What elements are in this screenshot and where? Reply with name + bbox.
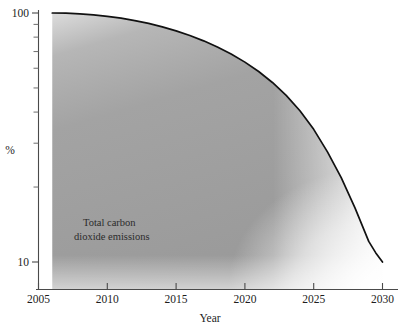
x-tick-label-2030: 2030 [371,293,394,305]
y-axis-title: % [5,144,15,156]
x-tick-label-2015: 2015 [165,293,188,305]
x-tick-label-2005: 2005 [27,293,50,305]
annotation-line-1: Total carbon [83,217,136,228]
plot-area [38,8,384,289]
y-tick-label-100: 100 [12,7,30,19]
x-tick-label-2025: 2025 [302,293,325,305]
x-axis-title: Year [199,312,220,324]
annotation-line-2: dioxide emissions [74,231,150,242]
x-axis: 2005 2010 2015 2020 2025 2030 Year [27,283,398,324]
emissions-decline-chart: 100 10 % 2005 2010 2015 2020 2025 2030 Y… [0,0,403,331]
x-tick-label-2020: 2020 [233,293,256,305]
x-tick-label-2010: 2010 [96,293,119,305]
y-tick-label-10: 10 [18,256,30,268]
y-axis: 100 10 % [5,7,38,289]
chart-container: 100 10 % 2005 2010 2015 2020 2025 2030 Y… [0,0,403,331]
corner-fade-overlay [38,8,384,289]
y-minor-ticks [34,24,39,187]
